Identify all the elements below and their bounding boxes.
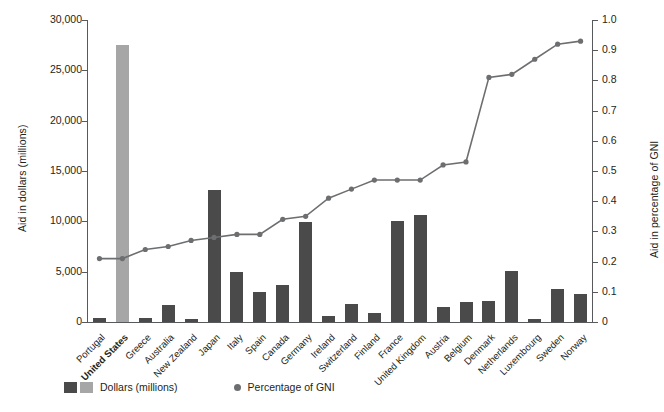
y-axis-right-tick bbox=[593, 201, 598, 202]
y-axis-right-tick bbox=[593, 141, 598, 142]
legend-label-dollars: Dollars (millions) bbox=[100, 381, 178, 393]
y-axis-right-tick bbox=[593, 231, 598, 232]
aid-chart: Aid in dollars (millions) Aid in percent… bbox=[0, 0, 664, 412]
y-axis-right-tick bbox=[593, 50, 598, 51]
x-axis-label: Japan bbox=[196, 332, 222, 358]
x-axis-label: Finland bbox=[352, 332, 382, 362]
y-axis-left-tick bbox=[82, 121, 87, 122]
y-axis-right-tick bbox=[593, 111, 598, 112]
y-axis-left-tick bbox=[82, 70, 87, 71]
y-axis-left-tick bbox=[82, 272, 87, 273]
legend-swatch-dark-icon bbox=[64, 382, 77, 393]
y-axis-left-tick bbox=[82, 171, 87, 172]
legend-item-dollars: Dollars (millions) bbox=[64, 381, 178, 393]
y-axis-left-tick bbox=[82, 221, 87, 222]
legend-label-gni: Percentage of GNI bbox=[248, 381, 335, 393]
y-axis-right-tick bbox=[593, 80, 598, 81]
y-axis-right-tick bbox=[593, 20, 598, 21]
y-axis-left-tick bbox=[82, 20, 87, 21]
y-axis-right-tick bbox=[593, 262, 598, 263]
y-axis-left-tick bbox=[82, 322, 87, 323]
legend-item-gni: Percentage of GNI bbox=[234, 381, 335, 393]
y-axis-right-tick bbox=[593, 292, 598, 293]
legend-dot-icon bbox=[234, 384, 241, 391]
y-axis-right-tick bbox=[593, 171, 598, 172]
legend-swatch-light-icon bbox=[80, 382, 93, 393]
x-axis-category-labels: PortugalUnited StatesGreeceAustraliaNew … bbox=[0, 0, 664, 412]
chart-legend: Dollars (millions) Percentage of GNI bbox=[64, 381, 335, 393]
y-axis-right-tick bbox=[593, 322, 598, 323]
